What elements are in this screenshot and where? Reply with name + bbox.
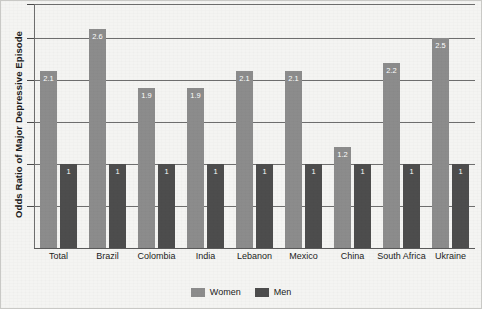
bar-women-south-africa: 2.2 [383, 63, 400, 248]
legend-item-men: Men [255, 287, 292, 297]
bar-men-brazil: 1 [109, 164, 126, 248]
bar-women-china: 1.2 [334, 147, 351, 248]
bar-value-label: 2.1 [285, 74, 302, 83]
bar-value-label: 1 [158, 167, 175, 176]
x-axis-label-india: India [181, 251, 230, 262]
x-axis-label-colombia: Colombia [132, 251, 181, 262]
bar-value-label: 2.6 [89, 32, 106, 41]
bar-value-label: 1.9 [138, 91, 155, 100]
legend-swatch-men [255, 288, 269, 297]
x-axis-line [34, 248, 475, 249]
chart-legend: WomenMen [1, 287, 481, 297]
bar-value-label: 1.2 [334, 150, 351, 159]
chart-figure: Odds Ratio of Major Depressive Episode 2… [0, 0, 482, 309]
bar-group: 2.11 [279, 4, 328, 248]
bar-women-ukraine: 2.5 [432, 38, 449, 248]
x-axis-tick-labels: TotalBrazilColombiaIndiaLebanonMexicoChi… [34, 251, 475, 281]
bar-group: 2.51 [426, 4, 475, 248]
bar-group: 1.91 [181, 4, 230, 248]
y-axis-tick [27, 122, 34, 123]
bar-women-india: 1.9 [187, 88, 204, 248]
bar-value-label: 1 [109, 167, 126, 176]
bar-group: 1.21 [328, 4, 377, 248]
bar-men-mexico: 1 [305, 164, 322, 248]
bar-group: 2.11 [34, 4, 83, 248]
y-axis-tick [27, 80, 34, 81]
y-axis-title-text: Odds Ratio of Major Depressive Episode [13, 31, 24, 218]
bar-men-colombia: 1 [158, 164, 175, 248]
bar-group: 2.61 [83, 4, 132, 248]
bar-value-label: 1 [60, 167, 77, 176]
bar-value-label: 1 [354, 167, 371, 176]
bar-value-label: 2.1 [236, 74, 253, 83]
bar-value-label: 1 [305, 167, 322, 176]
bar-group: 1.91 [132, 4, 181, 248]
x-axis-label-mexico: Mexico [279, 251, 328, 262]
y-axis-tick [27, 38, 34, 39]
legend-label-women: Women [210, 287, 241, 297]
bar-men-lebanon: 1 [256, 164, 273, 248]
legend-label-men: Men [274, 287, 292, 297]
plot-area: 2.112.611.911.912.112.111.212.212.51 [34, 4, 475, 248]
bar-value-label: 2.1 [40, 74, 57, 83]
y-axis-tick [27, 206, 34, 207]
x-axis-label-brazil: Brazil [83, 251, 132, 262]
legend-item-women: Women [191, 287, 241, 297]
bar-value-label: 1 [403, 167, 420, 176]
bar-men-china: 1 [354, 164, 371, 248]
x-axis-label-total: Total [34, 251, 83, 262]
y-axis-title: Odds Ratio of Major Depressive Episode [9, 1, 27, 248]
x-axis-label-lebanon: Lebanon [230, 251, 279, 262]
bar-group: 2.21 [377, 4, 426, 248]
bar-value-label: 2.5 [432, 41, 449, 50]
x-axis-label-china: China [328, 251, 377, 262]
bar-men-south-africa: 1 [403, 164, 420, 248]
bar-value-label: 1 [256, 167, 273, 176]
bar-value-label: 1 [452, 167, 469, 176]
y-axis-line [34, 4, 35, 249]
bar-value-label: 2.2 [383, 66, 400, 75]
bar-women-total: 2.1 [40, 71, 57, 248]
bar-value-label: 1.9 [187, 91, 204, 100]
y-axis-tick [27, 164, 34, 165]
bar-group: 2.11 [230, 4, 279, 248]
bar-women-brazil: 2.6 [89, 29, 106, 248]
bar-men-total: 1 [60, 164, 77, 248]
bar-women-mexico: 2.1 [285, 71, 302, 248]
x-axis-label-ukraine: Ukraine [426, 251, 475, 262]
bar-women-colombia: 1.9 [138, 88, 155, 248]
legend-swatch-women [191, 288, 205, 297]
bar-women-lebanon: 2.1 [236, 71, 253, 248]
x-axis-label-south-africa: South Africa [377, 251, 426, 262]
bar-men-ukraine: 1 [452, 164, 469, 248]
bar-value-label: 1 [207, 167, 224, 176]
y-axis-tick [27, 4, 34, 5]
bar-men-india: 1 [207, 164, 224, 248]
